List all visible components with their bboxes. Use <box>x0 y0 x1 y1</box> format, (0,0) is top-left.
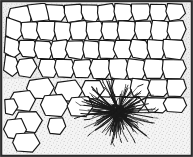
illustration-canvas <box>0 0 193 157</box>
stone <box>150 4 169 21</box>
stone-wall-illustration: Dry stone wall with gravel ground and we… <box>0 0 193 157</box>
stone <box>163 97 186 112</box>
plant-leaf <box>84 119 90 120</box>
stone <box>98 3 117 21</box>
plant-core-blob <box>115 112 118 115</box>
plant-core-blob <box>122 117 124 119</box>
stone <box>162 59 186 78</box>
plant-core-blob <box>119 118 123 122</box>
plant-core-blob <box>120 105 124 109</box>
stone <box>46 4 67 21</box>
plant-core-blob <box>124 114 128 118</box>
plant-leaf <box>110 132 111 136</box>
plant-core-blob <box>110 107 114 111</box>
plant-leaf <box>119 126 120 129</box>
plant-core-blob <box>109 112 111 114</box>
stone <box>163 39 186 60</box>
plant-core-blob <box>122 111 125 114</box>
plant-core-blob <box>116 105 119 108</box>
plant-core-blob <box>120 115 121 116</box>
plant-core-blob <box>117 116 119 118</box>
